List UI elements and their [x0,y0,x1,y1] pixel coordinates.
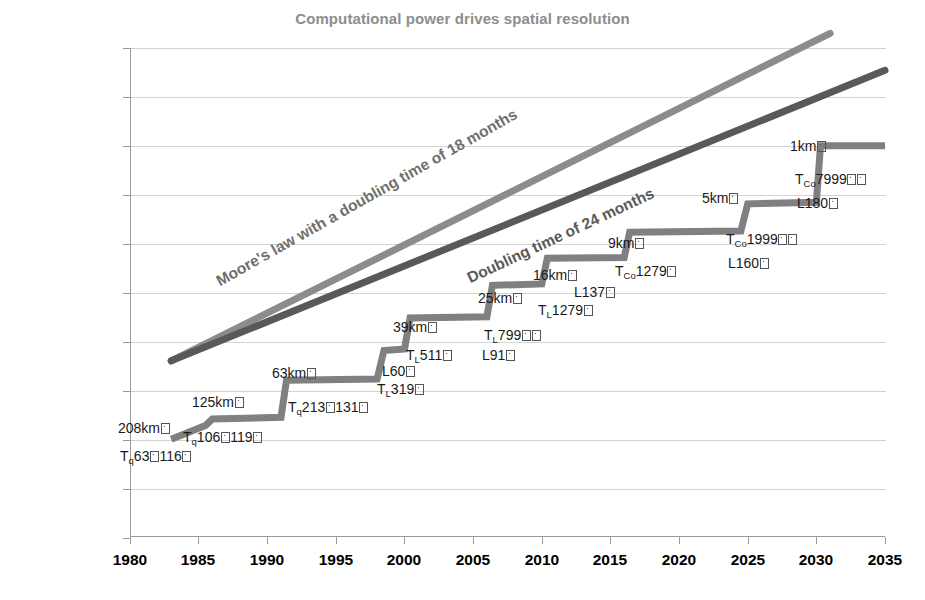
xtick-label: 2025 [718,551,778,569]
ytick-mark [123,342,130,343]
missing-glyph-icon [161,423,170,434]
annotation-res-208: 208km [118,421,170,435]
xtick-label: 2035 [855,551,915,569]
annotation-res-125: 125km [192,395,244,409]
annotation-res-16: 16km [533,268,577,282]
chart-title: Computational power drives spatial resol… [0,10,925,27]
missing-glyph-icon [568,270,577,281]
xtick-mark [336,537,337,544]
missing-glyph-icon [406,366,415,377]
missing-glyph-icon [326,402,335,413]
xtick-mark [679,537,680,544]
ytick-mark [123,48,130,49]
ytick-mark [123,489,130,490]
annotation-spec-tq63: Tq63116 [120,449,192,463]
annotation-spec-tco1999: TCo1999 [726,232,798,246]
missing-glyph-icon [415,384,424,395]
missing-glyph-icon [829,198,838,209]
ytick-mark [123,293,130,294]
missing-glyph-icon [584,305,593,316]
xtick-label: 1995 [306,551,366,569]
annotation-res-1: 1km [790,139,826,153]
gridline [131,391,886,392]
annotation-spec-l91: L91 [482,348,515,362]
ytick-mark [123,195,130,196]
xtick-label: 2030 [786,551,846,569]
annotation-spec-l137: L137 [574,285,615,299]
gridline [131,48,886,49]
annotation-spec-tq106: Tq106119 [183,430,263,444]
annotation-res-25: 25km [478,291,522,305]
missing-glyph-icon [606,287,615,298]
missing-glyph-icon [857,174,866,185]
xtick-label: 1990 [237,551,297,569]
missing-glyph-icon [522,330,531,341]
xtick-mark [130,537,131,544]
xtick-label: 2010 [512,551,572,569]
xtick-label: 2015 [580,551,640,569]
xtick-mark [885,537,886,544]
annotation-spec-l180: L180 [797,196,838,210]
missing-glyph-icon [667,266,676,277]
missing-glyph-icon [506,350,515,361]
missing-glyph-icon [788,234,797,245]
xtick-mark [404,537,405,544]
xtick-mark [816,537,817,544]
missing-glyph-icon [428,322,437,333]
annotation-spec-tl1279: TL1279 [538,303,593,317]
missing-glyph-icon [729,193,738,204]
ytick-mark [123,97,130,98]
annotation-res-39: 39km [393,320,437,334]
chart-container: Computational power drives spatial resol… [0,0,925,600]
ytick-mark [123,538,130,539]
xtick-mark [267,537,268,544]
xtick-mark [542,537,543,544]
annotation-spec-tco1279: TCo1279 [615,264,677,278]
gridline [131,489,886,490]
annotation-res-9: 9km [608,236,644,250]
missing-glyph-icon [182,451,191,462]
xtick-mark [473,537,474,544]
gridline [131,195,886,196]
annotation-spec-tq213: Tq213131 [288,400,369,414]
missing-glyph-icon [513,293,522,304]
annotation-spec-tco7999: TCo7999 [795,172,867,186]
annotation-res-63: 63km [272,366,316,380]
annotation-spec-tl319: TL319 [377,382,424,396]
xtick-mark [748,537,749,544]
missing-glyph-icon [532,330,541,341]
missing-glyph-icon [235,397,244,408]
ytick-mark [123,440,130,441]
xtick-mark [198,537,199,544]
annotation-spec-l60: L60 [382,364,415,378]
missing-glyph-icon [847,174,856,185]
xtick-mark [610,537,611,544]
missing-glyph-icon [817,141,826,152]
missing-glyph-icon [307,368,316,379]
missing-glyph-icon [443,350,452,361]
xtick-label: 2020 [649,551,709,569]
missing-glyph-icon [359,402,368,413]
missing-glyph-icon [778,234,787,245]
annotation-spec-l160: L160 [728,256,769,270]
missing-glyph-icon [253,432,262,443]
gridline [131,97,886,98]
xtick-label: 1980 [100,551,160,569]
annotation-spec-tl799: TL799 [484,328,541,342]
xtick-label: 2000 [374,551,434,569]
annotation-res-5: 5km [702,191,738,205]
ytick-mark [123,146,130,147]
missing-glyph-icon [150,451,159,462]
annotation-spec-tl511: TL511 [406,348,452,362]
gridline [131,146,886,147]
missing-glyph-icon [760,258,769,269]
xtick-label: 2005 [443,551,503,569]
ytick-mark [123,244,130,245]
missing-glyph-icon [221,432,230,443]
xtick-label: 1985 [168,551,228,569]
missing-glyph-icon [635,238,644,249]
ytick-mark [123,391,130,392]
